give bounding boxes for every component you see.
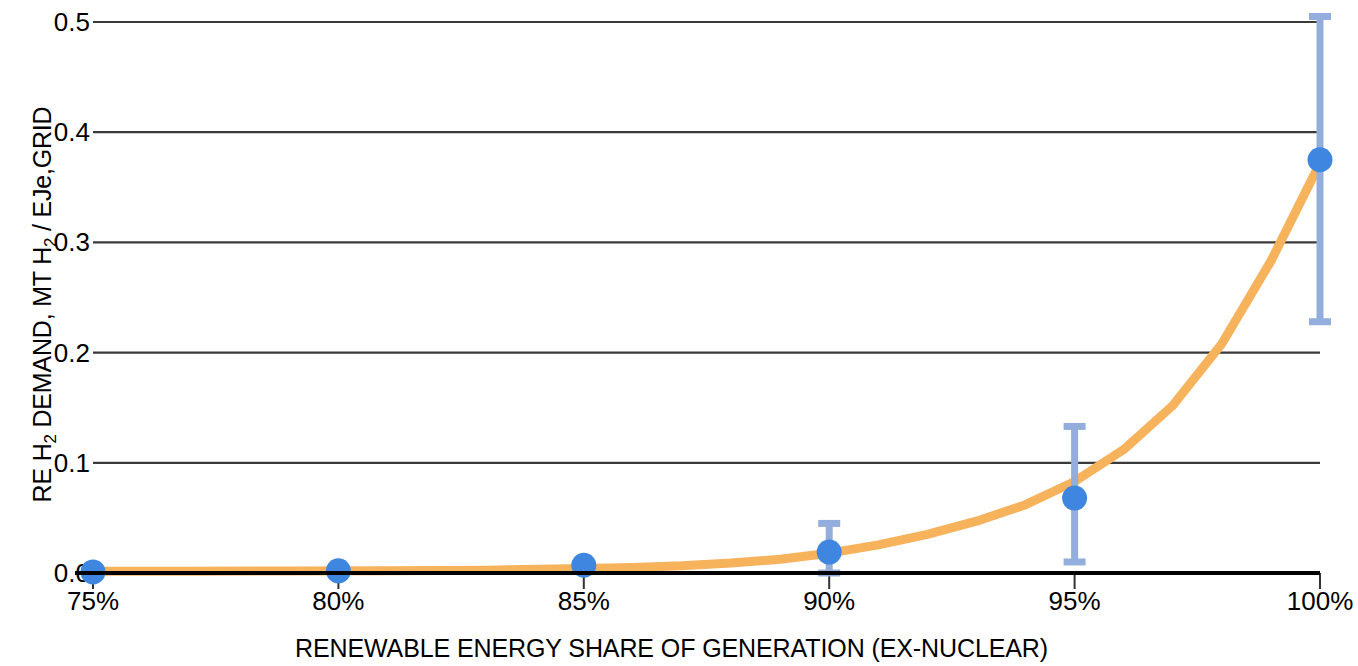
- data-point-markers: [81, 147, 1333, 584]
- data-point: [817, 540, 842, 565]
- gridlines: [93, 22, 1320, 463]
- x-axis-label: RENEWABLE ENERGY SHARE OF GENERATION (EX…: [0, 634, 1343, 663]
- fit-curve: [93, 163, 1320, 571]
- data-point: [1308, 147, 1333, 172]
- trend-line: [93, 163, 1320, 571]
- data-point: [1062, 486, 1087, 511]
- data-point: [326, 558, 351, 583]
